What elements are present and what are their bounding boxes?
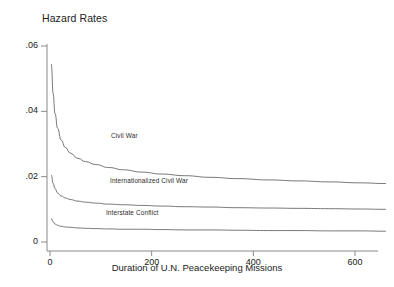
hazard-rates-chart: Hazard Rates .06 .04 .02 0 0 200 400 600… bbox=[0, 0, 394, 287]
series-curve-0 bbox=[52, 64, 386, 184]
series-curve-1 bbox=[52, 175, 386, 209]
series-label-interstate-conflict: Interstate Conflict bbox=[106, 209, 159, 216]
series-label-internationalized-civil-war: Internationalized Civil War bbox=[110, 177, 188, 184]
chart-plot-area bbox=[0, 0, 394, 287]
series-curve-2 bbox=[52, 218, 386, 231]
x-axis-label: Duration of U.N. Peacekeeping Missions bbox=[0, 262, 394, 273]
y-tick-label-0: .06 bbox=[4, 40, 38, 50]
series-label-civil-war: Civil War bbox=[111, 132, 138, 139]
y-tick-label-1: .04 bbox=[4, 105, 38, 115]
y-tick-label-2: .02 bbox=[4, 171, 38, 181]
y-tick-label-3: 0 bbox=[4, 236, 38, 246]
